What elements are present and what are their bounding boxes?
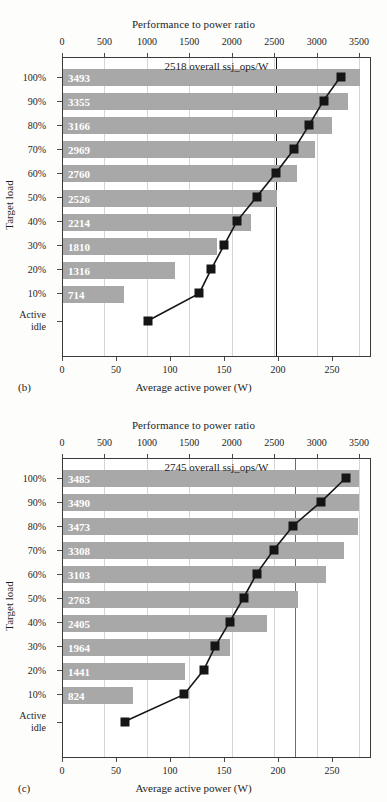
panel-c: Performance to power ratio05001000150020… <box>0 401 387 802</box>
data-point-marker <box>252 193 261 202</box>
data-point-marker <box>290 144 299 153</box>
bottom-axis-tick-label: 150 <box>217 364 232 375</box>
bottom-axis-tick-label: 150 <box>217 765 232 776</box>
power-line-series <box>0 401 387 802</box>
bottom-axis-tick-mark <box>224 357 225 361</box>
bottom-axis-tick-label: 100 <box>163 765 178 776</box>
power-line-series <box>0 0 387 401</box>
data-point-marker <box>225 618 234 627</box>
data-point-marker <box>317 497 326 506</box>
bottom-axis-tick-mark <box>170 357 171 361</box>
panel-letter: (b) <box>18 381 31 393</box>
bottom-axis-tick-label: 0 <box>60 364 65 375</box>
bottom-axis-tick-label: 100 <box>163 364 178 375</box>
bottom-axis-tick-label: 200 <box>271 765 286 776</box>
panel-b: Performance to power ratio05001000150020… <box>0 0 387 401</box>
bottom-axis-tick-label: 250 <box>325 364 340 375</box>
bottom-axis-tick-mark <box>278 758 279 762</box>
data-point-marker <box>269 545 278 554</box>
data-point-marker <box>207 265 216 274</box>
bottom-axis-tick-mark <box>278 357 279 361</box>
bottom-axis-tick-mark <box>170 758 171 762</box>
panel-letter: (c) <box>18 782 30 794</box>
data-point-marker <box>180 690 189 699</box>
bottom-axis-tick-mark <box>116 357 117 361</box>
bottom-axis-tick-label: 250 <box>325 765 340 776</box>
data-point-marker <box>195 289 204 298</box>
bottom-axis-tick-label: 0 <box>60 765 65 776</box>
data-point-marker <box>336 72 345 81</box>
bottom-axis-tick-label: 200 <box>271 364 286 375</box>
bottom-axis-tick-mark <box>224 758 225 762</box>
bottom-axis-tick-mark <box>332 758 333 762</box>
bottom-axis-title: Average active power (W) <box>0 381 387 393</box>
bottom-axis-tick-mark <box>116 758 117 762</box>
data-point-marker <box>252 569 261 578</box>
data-point-marker <box>120 717 129 726</box>
data-point-marker <box>342 473 351 482</box>
data-point-marker <box>305 120 314 129</box>
data-point-marker <box>220 241 229 250</box>
data-point-marker <box>319 96 328 105</box>
bottom-axis-tick-mark <box>332 357 333 361</box>
data-point-marker <box>289 521 298 530</box>
bottom-axis-tick-mark <box>62 758 63 762</box>
bottom-axis-tick-label: 50 <box>111 364 121 375</box>
data-point-marker <box>199 666 208 675</box>
data-point-marker <box>144 316 153 325</box>
bottom-axis-tick-label: 50 <box>111 765 121 776</box>
data-point-marker <box>239 594 248 603</box>
data-point-marker <box>271 168 280 177</box>
data-point-marker <box>211 642 220 651</box>
data-point-marker <box>233 217 242 226</box>
bottom-axis-tick-mark <box>62 357 63 361</box>
bottom-axis-title: Average active power (W) <box>0 782 387 794</box>
